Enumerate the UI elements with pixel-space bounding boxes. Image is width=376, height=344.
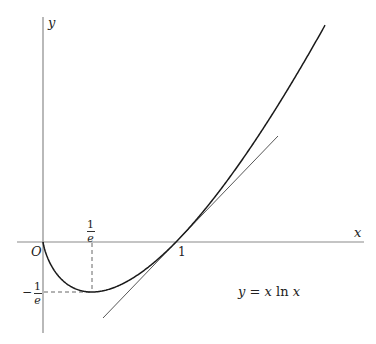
x-axis-label: x bbox=[354, 226, 361, 239]
eq-equals: = bbox=[245, 284, 264, 299]
chart-figure: y x O 1 1 e − 1 e y = x ln x bbox=[0, 0, 376, 344]
eq-x2: x bbox=[293, 284, 300, 299]
eq-x1: x bbox=[265, 284, 272, 299]
eq-ln: ln bbox=[272, 284, 293, 299]
fraction-numerator: 1 bbox=[86, 219, 95, 231]
tick-label-one: 1 bbox=[178, 246, 186, 258]
fraction-numerator: 1 bbox=[33, 281, 42, 293]
origin-label: O bbox=[31, 245, 42, 258]
plot-svg bbox=[0, 0, 376, 344]
y-axis-label: y bbox=[48, 16, 55, 29]
tick-label-neg-one-over-e: 1 e bbox=[33, 281, 42, 306]
fraction-denominator: e bbox=[34, 294, 41, 306]
equation-label: y = x ln x bbox=[238, 285, 300, 298]
fraction-denominator: e bbox=[87, 232, 94, 244]
tick-label-one-over-e: 1 e bbox=[86, 219, 95, 244]
minus-sign: − bbox=[22, 285, 32, 299]
